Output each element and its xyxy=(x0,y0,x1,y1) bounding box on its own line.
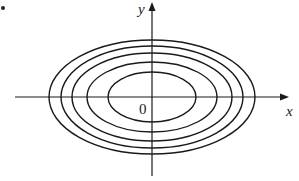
x-axis-arrow-icon xyxy=(280,94,289,101)
contour-diagram: y x 0 xyxy=(0,0,299,181)
x-axis-label: x xyxy=(285,103,293,119)
y-axis-arrow-icon xyxy=(149,2,156,11)
origin-label: 0 xyxy=(139,101,147,117)
bullet-marker xyxy=(1,6,5,10)
y-axis-label: y xyxy=(136,1,145,17)
